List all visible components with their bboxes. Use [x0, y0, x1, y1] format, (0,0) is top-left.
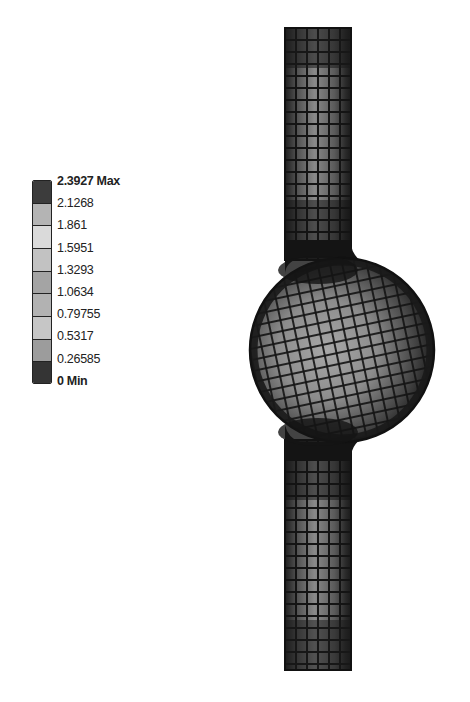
- lower-tube: [285, 440, 351, 670]
- fea-mesh-model: [0, 0, 470, 702]
- upper-tube: [285, 28, 351, 260]
- spherical-bulge: [250, 256, 434, 446]
